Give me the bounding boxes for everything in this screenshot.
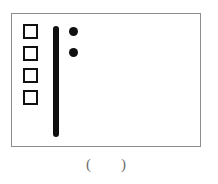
vertical-bar	[53, 26, 59, 137]
square-item	[23, 24, 38, 39]
paren-open: (	[86, 156, 91, 173]
square-item	[23, 90, 38, 105]
paren-close: )	[121, 156, 126, 173]
diagram-panel	[11, 13, 201, 147]
square-column	[23, 24, 43, 120]
caption: ()	[11, 152, 201, 176]
square-item	[23, 46, 38, 61]
figure-root: ()	[0, 0, 218, 184]
dot-item	[69, 48, 78, 57]
square-item	[23, 68, 38, 83]
dot-item	[69, 27, 78, 36]
